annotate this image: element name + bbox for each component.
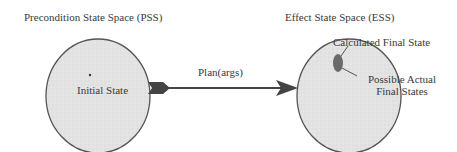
initial-state-dot <box>89 74 91 76</box>
pss-title: Precondition State Space (PSS) <box>24 11 162 23</box>
plan-label: Plan(args) <box>198 66 243 78</box>
possible-label-line1: Possible Actual <box>362 73 442 85</box>
initial-state-label: Initial State <box>77 84 128 96</box>
possible-final-states-label: Possible Actual Final States <box>362 73 442 97</box>
arrow-tail-icon <box>148 82 170 94</box>
calculated-final-state-label: Calculated Final State <box>333 36 430 48</box>
possible-label-line2: Final States <box>362 85 442 97</box>
ess-title: Effect State Space (ESS) <box>285 11 394 23</box>
calculated-final-state-blob <box>333 54 343 72</box>
